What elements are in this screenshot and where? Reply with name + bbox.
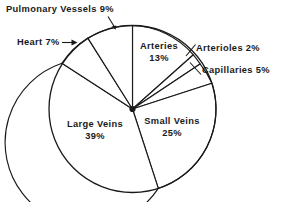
pie-chart-svg: [0, 0, 290, 202]
slice-label-capillaries: Capillaries 5%: [202, 65, 270, 77]
slice-label-large-veins: Large Veins 39%: [61, 119, 129, 142]
slice-label-arteries-value: 13%: [131, 53, 187, 65]
slice-label-small-veins-name: Small Veins: [139, 116, 205, 128]
slice-label-large-veins-value: 39%: [61, 131, 129, 143]
slice-label-small-veins-value: 25%: [139, 128, 205, 140]
pie-chart-figure: Pulmonary Vessels 9% Heart 7% Arterioles…: [0, 0, 290, 202]
slice-label-arteries: Arteries 13%: [131, 41, 187, 64]
slice-label-arterioles: Arterioles 2%: [196, 43, 260, 55]
slice-label-arteries-name: Arteries: [131, 41, 187, 53]
pie-center-hub: [129, 106, 135, 112]
slice-label-small-veins: Small Veins 25%: [139, 116, 205, 139]
heart-arrow-icon: [62, 40, 78, 46]
slice-label-large-veins-name: Large Veins: [61, 119, 129, 131]
slice-label-pulmonary-vessels: Pulmonary Vessels 9%: [6, 4, 114, 16]
slice-label-heart: Heart 7%: [17, 37, 60, 49]
